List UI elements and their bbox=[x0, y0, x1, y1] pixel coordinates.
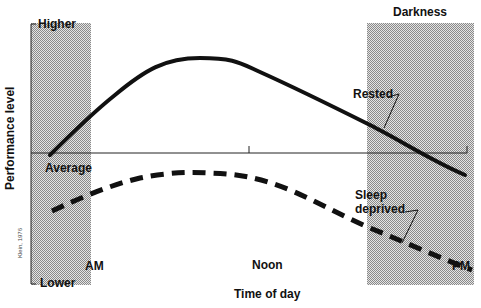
y-tick-lower: Lower bbox=[40, 276, 75, 290]
y-tick-average: Average bbox=[45, 161, 92, 175]
chart-plot bbox=[0, 0, 481, 308]
x-axis-title: Time of day bbox=[234, 287, 300, 301]
x-tick-am: AM bbox=[85, 259, 104, 273]
rested-label: Rested bbox=[353, 87, 393, 101]
darkness-region-morning bbox=[31, 23, 91, 285]
x-tick-noon: Noon bbox=[252, 258, 283, 272]
sleep-label: Sleep bbox=[355, 188, 387, 202]
darkness-label: Darkness bbox=[393, 5, 447, 19]
y-axis-title: Performance level bbox=[3, 87, 17, 190]
deprived-label: deprived bbox=[355, 202, 405, 216]
performance-chart: Higher Average Lower AM Noon PM Darkness… bbox=[0, 0, 481, 308]
y-tick-higher: Higher bbox=[38, 17, 76, 31]
x-tick-pm: PM bbox=[452, 259, 470, 273]
source-credit: Klein, 1976 bbox=[17, 228, 23, 258]
